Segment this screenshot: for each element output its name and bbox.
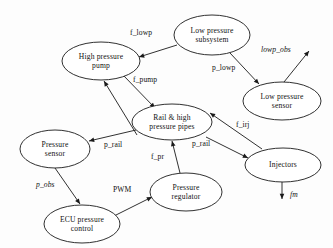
arrow-head-icon bbox=[89, 138, 95, 142]
edge-lowp-obs bbox=[284, 51, 309, 82]
edge-line bbox=[210, 113, 262, 149]
arrow-head-icon bbox=[139, 53, 145, 57]
edge-label-f-irj: f_irj bbox=[236, 120, 250, 129]
node-pressure-regulator[interactable] bbox=[150, 173, 222, 211]
edge-f-lowp bbox=[139, 45, 177, 58]
node-pressure-sensor[interactable] bbox=[20, 130, 90, 168]
node-injectors[interactable] bbox=[245, 148, 321, 182]
edge-label-lowp-obs: lowp_obs bbox=[261, 45, 291, 54]
node-low-pressure-sensor[interactable] bbox=[243, 82, 321, 120]
edge-line bbox=[55, 168, 80, 204]
edge-line bbox=[104, 81, 137, 135]
edge-f-pr bbox=[171, 141, 180, 173]
node-high-pressure-pump[interactable] bbox=[62, 42, 140, 80]
diagram-svg bbox=[0, 0, 333, 248]
node-ecu-pressure-control[interactable] bbox=[44, 205, 120, 243]
diagram-canvas: Low pressuresubsystemHigh pressurepumpLo… bbox=[0, 0, 333, 248]
edge-line bbox=[114, 197, 152, 216]
edge-label-p-rail-right: p_rail bbox=[192, 139, 210, 148]
edge-line bbox=[206, 137, 248, 158]
arrow-head-icon bbox=[104, 81, 109, 87]
edge-fm bbox=[280, 182, 285, 199]
arrow-head-icon bbox=[171, 141, 175, 147]
edge-label-fm: fm bbox=[290, 190, 298, 199]
edge-p-obs bbox=[55, 168, 80, 204]
edge-label-f-pump: f_pump bbox=[133, 75, 157, 84]
edge-label-f-pr: f_pr bbox=[151, 152, 164, 161]
edge-label-pwm: PWM bbox=[113, 185, 131, 194]
edge-label-p-rail-left: p_rail bbox=[104, 140, 122, 149]
edge-label-p-lowp: p_lowp bbox=[212, 63, 235, 72]
node-low-pressure-subsystem[interactable] bbox=[174, 15, 250, 55]
edge-line bbox=[284, 51, 309, 82]
edge-f-irj bbox=[210, 113, 262, 149]
node-rail-and-high-pressure-pipes[interactable] bbox=[132, 104, 212, 140]
edge-p-rail-right bbox=[206, 137, 248, 158]
edge-label-p-obs: p_obs bbox=[36, 180, 55, 189]
edge-label-f-lowp: f_lowp bbox=[130, 28, 152, 37]
edge-pwm bbox=[114, 197, 152, 216]
edge-pressure-sensor-to-pump bbox=[104, 81, 137, 135]
arrow-head-icon bbox=[280, 194, 285, 199]
arrow-head-icon bbox=[75, 198, 80, 204]
edge-line bbox=[139, 45, 177, 57]
